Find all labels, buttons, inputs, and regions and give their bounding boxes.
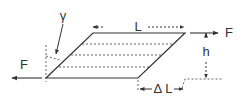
h-label: h	[202, 44, 209, 59]
gamma-arrow	[56, 24, 63, 54]
force-label-right: F	[225, 25, 233, 40]
h-baseline	[182, 79, 222, 88]
layer-lines	[59, 44, 174, 67]
gamma-label: γ	[60, 8, 67, 23]
sheared-block	[46, 33, 185, 78]
delta-L-label: Δ L	[154, 81, 173, 96]
gamma-reference-tick	[46, 56, 60, 60]
shear-diagram: γ L F F h Δ L	[0, 0, 247, 98]
L-label: L	[134, 19, 141, 34]
force-label-left: F	[20, 57, 28, 72]
